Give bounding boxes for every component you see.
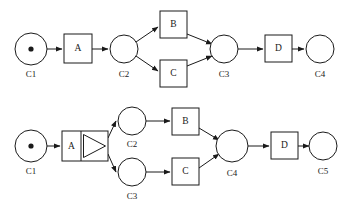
edge-b-a-to-b-c3 [108,154,116,172]
top-net: ABCDC1C2C3C4 [15,11,334,87]
transition-label: B [182,116,188,126]
transition-c[interactable]: C [172,158,199,185]
place-caption: C3 [219,69,230,79]
place-c1[interactable]: C1 [15,130,47,176]
transition-label: C [182,166,188,176]
edge-t-b-to-t-c3 [187,34,212,44]
place-circle [118,107,146,135]
place-caption: C2 [119,69,130,79]
place-caption: C1 [26,166,37,176]
place-circle [118,158,146,186]
place-c3[interactable]: C3 [210,35,238,79]
edge-b-b-to-b-c4 [199,128,219,140]
place-c1[interactable]: C1 [15,33,47,79]
place-c4[interactable]: C4 [216,130,248,178]
edge-t-c2-to-t-b [136,27,158,42]
place-c2[interactable]: C2 [118,107,146,149]
edge-t-c-to-t-c3 [187,56,212,66]
place-caption: C5 [318,166,329,176]
transition-d[interactable]: D [265,35,292,62]
transition-label: A [75,43,82,53]
place-circle [306,35,334,63]
transition-b[interactable]: B [160,11,187,38]
token-dot-icon [28,46,33,51]
transition-label: A [68,141,75,151]
figure-container: ABCDC1C2C3C4 ABCDC1C2C3C4C5 [0,0,350,211]
transition-label: B [170,19,176,29]
transition-label: C [170,68,176,78]
place-caption: C1 [26,69,37,79]
place-c5[interactable]: C5 [309,132,337,176]
place-caption: C2 [127,139,138,149]
petri-net-diagram: ABCDC1C2C3C4 ABCDC1C2C3C4C5 [0,0,350,211]
transition-label: D [281,140,288,150]
place-c2[interactable]: C2 [110,35,138,79]
place-caption: C4 [227,168,238,178]
edge-b-c-to-b-c4 [199,154,219,168]
edge-t-c2-to-t-c [136,56,158,71]
token-dot-icon [28,143,33,148]
transition-b[interactable]: B [172,108,199,135]
place-caption: C3 [127,191,138,201]
place-caption: C4 [315,69,326,79]
transition-c[interactable]: C [160,60,187,87]
transition-a[interactable]: A [62,131,108,161]
place-c3[interactable]: C3 [118,158,146,201]
bottom-net: ABCDC1C2C3C4C5 [15,107,337,201]
place-circle [309,132,337,160]
place-circle [216,130,248,162]
place-circle [110,35,138,63]
place-circle [210,35,238,63]
edge-b-a-to-b-c2 [108,121,116,138]
transition-d[interactable]: D [271,132,298,159]
place-c4[interactable]: C4 [306,35,334,79]
transition-label: D [275,43,282,53]
transition-a[interactable]: A [64,34,92,63]
